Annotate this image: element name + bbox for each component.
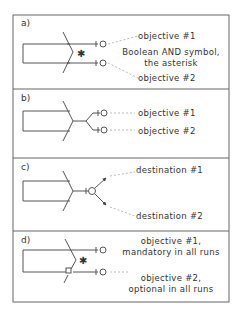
panel-c-letter: c): [21, 162, 29, 172]
panel-d-label-top1: objective #1,: [115, 236, 227, 246]
panel-d-label-bottom2: optional in all runs: [115, 284, 227, 294]
panel-a-label-mid1: Boolean AND symbol,: [115, 47, 227, 57]
panel-a-label-mid2: the asterisk: [115, 58, 227, 68]
panel-d-label-bottom1: objective #2,: [115, 273, 227, 283]
panel-a-letter: a): [21, 18, 30, 28]
panel-a-label-bottom: objective #2: [138, 73, 196, 83]
panel-b-label-top: objective #1: [138, 108, 196, 118]
asterisk-icon: ✱: [77, 48, 85, 59]
panel-d-letter: d): [21, 235, 30, 245]
panel-b-letter: b): [21, 93, 30, 103]
panel-b-diagram: [23, 101, 107, 141]
panel-b-label-bottom: objective #2: [138, 126, 196, 136]
panel-a-diagram: [23, 32, 106, 73]
panel-a-label-top: objective #1: [138, 31, 196, 41]
panel-d-diagram: [23, 239, 106, 283]
panel-c-label-top: destination #1: [136, 165, 203, 175]
panel-c-label-bottom: destination #2: [136, 211, 203, 221]
panel-c-diagram: [23, 171, 106, 211]
asterisk-icon: ✱: [79, 255, 87, 266]
panel-d-label-top2: mandatory in all runs: [115, 247, 227, 257]
